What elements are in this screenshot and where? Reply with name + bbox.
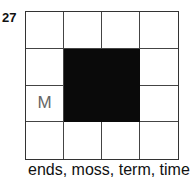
grid-cell-r2-c4[interactable] (140, 49, 178, 86)
grid-cell-r4-c3[interactable] (102, 122, 140, 159)
grid-cell-r3-c1[interactable]: M (26, 86, 64, 123)
grid-cell-r1-c3[interactable] (102, 12, 140, 49)
grid-cell-r2-c1[interactable] (26, 49, 64, 86)
grid-cell-r4-c4[interactable] (140, 122, 178, 159)
grid-cell-r4-c2[interactable] (64, 122, 102, 159)
grid-cell-r1-c4[interactable] (140, 12, 178, 49)
grid-cell-r1-c1[interactable] (26, 12, 64, 49)
grid-cell-r3-c4[interactable] (140, 86, 178, 123)
grid-cell-black (102, 49, 140, 86)
grid-cell-black (64, 86, 102, 123)
puzzle-number: 27 (2, 10, 16, 25)
grid-cell-r4-c1[interactable] (26, 122, 64, 159)
word-grid: M (25, 11, 179, 160)
grid-cell-black (64, 49, 102, 86)
word-list: ends, moss, term, time (28, 161, 190, 179)
grid-cell-black (102, 86, 140, 123)
grid-cell-r1-c2[interactable] (64, 12, 102, 49)
